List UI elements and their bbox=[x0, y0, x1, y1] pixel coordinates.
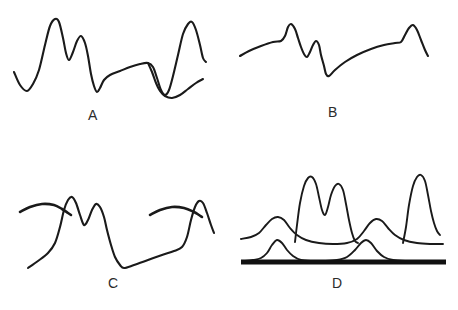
panel-a-plot bbox=[0, 0, 229, 155]
panel-b-waveform bbox=[240, 24, 428, 76]
figure-root: A B C D bbox=[0, 0, 458, 310]
panel-b-label: B bbox=[328, 104, 338, 120]
panel-a-waveform bbox=[14, 19, 206, 95]
panel-d-right-spike bbox=[403, 175, 440, 243]
panel-d-twin-peak-spike bbox=[295, 176, 358, 243]
panel-d-plot bbox=[229, 155, 458, 310]
panel-a-label: A bbox=[88, 107, 98, 123]
panel-d-label: D bbox=[332, 275, 343, 291]
panel-a: A bbox=[0, 0, 229, 155]
panel-b: B bbox=[229, 0, 458, 155]
panel-c-label: C bbox=[108, 275, 119, 291]
panel-d: D bbox=[229, 155, 458, 310]
panel-b-plot bbox=[229, 0, 458, 155]
panel-d-upper-envelope bbox=[241, 217, 443, 244]
panel-c: C bbox=[0, 155, 229, 310]
